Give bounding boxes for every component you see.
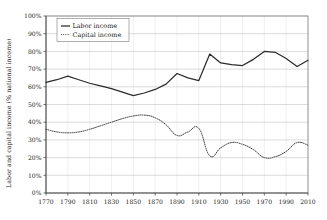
y-tick-label: 50%: [28, 101, 42, 108]
x-tick-label: 1810: [82, 198, 98, 205]
y-tick-label: 10%: [28, 172, 42, 179]
x-tick-label: 2010: [300, 198, 316, 205]
x-tick-label: 1950: [235, 198, 251, 205]
x-tick-label: 1890: [169, 198, 185, 205]
y-tick-label: 60%: [28, 83, 42, 90]
y-tick-label: 80%: [28, 48, 42, 55]
legend-label-labor-income: Labor income: [73, 22, 118, 30]
y-axis-title: Labor and capital income (% national inc…: [5, 39, 13, 188]
x-tick-label: 1770: [38, 198, 54, 205]
y-tick-label: 70%: [28, 65, 42, 72]
x-tick-label: 1850: [126, 198, 142, 205]
y-tick-label: 90%: [28, 30, 42, 37]
x-tick-label: 1970: [257, 198, 273, 205]
chart-figure: 0%10%20%30%40%50%60%70%80%90%100% 177017…: [0, 0, 327, 220]
y-tick-label: 0%: [32, 189, 42, 196]
x-tick-label: 1990: [278, 198, 294, 205]
x-tick-labels: 1770179018101830185018701890191019301950…: [38, 198, 316, 205]
chart-legend: Labor income Capital income: [57, 19, 129, 42]
y-tick-label: 40%: [28, 118, 42, 125]
y-tick-label: 100%: [24, 12, 42, 19]
chart-canvas: 0%10%20%30%40%50%60%70%80%90%100% 177017…: [0, 0, 327, 220]
x-tick-label: 1910: [191, 198, 207, 205]
x-tick-label: 1930: [213, 198, 229, 205]
legend-label-capital-income: Capital income: [73, 31, 122, 39]
x-tick-label: 1790: [60, 198, 76, 205]
y-tick-label: 20%: [28, 154, 42, 161]
y-tick-label: 30%: [28, 136, 42, 143]
y-tick-labels: 0%10%20%30%40%50%60%70%80%90%100%: [24, 12, 42, 196]
x-tick-label: 1830: [104, 198, 120, 205]
x-tick-label: 1870: [147, 198, 163, 205]
y-axis-title-group: Labor and capital income (% national inc…: [5, 39, 13, 188]
